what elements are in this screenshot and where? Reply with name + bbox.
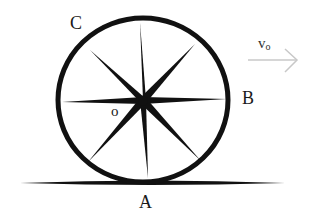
velocity-symbol: v bbox=[258, 35, 266, 51]
spoke-up bbox=[140, 22, 146, 100]
label-point-b: B bbox=[242, 89, 254, 107]
label-point-c: C bbox=[70, 14, 82, 32]
label-point-a: A bbox=[139, 193, 152, 211]
wheel-diagram bbox=[0, 0, 313, 223]
spoke-down bbox=[140, 100, 148, 178]
spoke-downright bbox=[140, 98, 201, 161]
spoke-left bbox=[62, 97, 143, 104]
velocity-arrow-icon bbox=[248, 49, 297, 72]
spoke-upright bbox=[140, 44, 195, 103]
spoke-right bbox=[143, 97, 227, 104]
label-center-o: o bbox=[111, 104, 119, 119]
diagram-canvas: C B o A vo bbox=[0, 0, 313, 223]
spoke-upleft bbox=[90, 50, 145, 103]
wheel-spokes bbox=[62, 22, 227, 178]
velocity-subscript: o bbox=[266, 41, 271, 52]
label-velocity: vo bbox=[258, 36, 271, 52]
wheel-hub bbox=[138, 96, 148, 106]
